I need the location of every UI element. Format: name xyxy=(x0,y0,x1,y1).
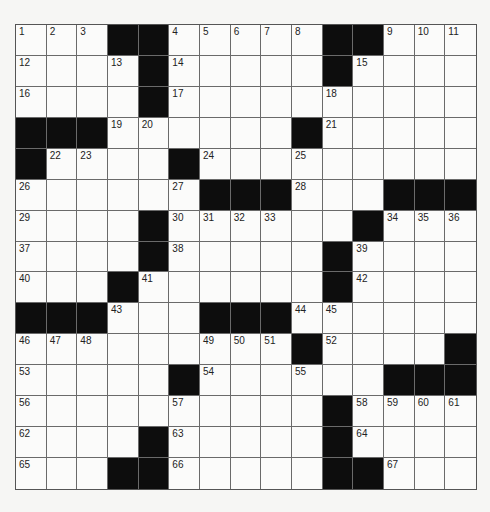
grid-cell[interactable] xyxy=(261,118,292,149)
grid-cell[interactable]: 49 xyxy=(200,334,231,365)
grid-cell[interactable] xyxy=(169,303,200,334)
grid-cell[interactable] xyxy=(108,87,139,118)
grid-cell[interactable]: 16 xyxy=(16,87,47,118)
grid-cell[interactable] xyxy=(384,242,415,273)
grid-cell[interactable]: 38 xyxy=(169,242,200,273)
grid-cell[interactable] xyxy=(108,396,139,427)
grid-cell[interactable]: 42 xyxy=(353,272,384,303)
grid-cell[interactable]: 65 xyxy=(16,458,47,489)
grid-cell[interactable] xyxy=(200,242,231,273)
grid-cell[interactable] xyxy=(77,396,108,427)
grid-cell[interactable] xyxy=(200,56,231,87)
grid-cell[interactable]: 57 xyxy=(169,396,200,427)
grid-cell[interactable] xyxy=(47,272,78,303)
grid-cell[interactable]: 6 xyxy=(231,25,262,56)
grid-cell[interactable] xyxy=(108,334,139,365)
grid-cell[interactable] xyxy=(415,149,446,180)
grid-cell[interactable] xyxy=(77,365,108,396)
grid-cell[interactable] xyxy=(292,56,323,87)
grid-cell[interactable] xyxy=(261,427,292,458)
grid-cell[interactable]: 43 xyxy=(108,303,139,334)
grid-cell[interactable] xyxy=(139,149,170,180)
grid-cell[interactable]: 17 xyxy=(169,87,200,118)
grid-cell[interactable] xyxy=(169,272,200,303)
grid-cell[interactable]: 52 xyxy=(323,334,354,365)
grid-cell[interactable] xyxy=(415,334,446,365)
grid-cell[interactable] xyxy=(323,149,354,180)
grid-cell[interactable]: 5 xyxy=(200,25,231,56)
grid-cell[interactable]: 19 xyxy=(108,118,139,149)
grid-cell[interactable] xyxy=(415,242,446,273)
grid-cell[interactable] xyxy=(169,118,200,149)
grid-cell[interactable] xyxy=(445,272,476,303)
grid-cell[interactable] xyxy=(353,118,384,149)
grid-cell[interactable] xyxy=(445,303,476,334)
grid-cell[interactable] xyxy=(169,334,200,365)
grid-cell[interactable] xyxy=(445,87,476,118)
grid-cell[interactable]: 24 xyxy=(200,149,231,180)
grid-cell[interactable] xyxy=(231,118,262,149)
grid-cell[interactable] xyxy=(415,303,446,334)
grid-cell[interactable]: 33 xyxy=(261,211,292,242)
grid-cell[interactable] xyxy=(384,149,415,180)
grid-cell[interactable] xyxy=(353,334,384,365)
grid-cell[interactable] xyxy=(231,396,262,427)
grid-cell[interactable]: 21 xyxy=(323,118,354,149)
grid-cell[interactable]: 28 xyxy=(292,180,323,211)
grid-cell[interactable]: 67 xyxy=(384,458,415,489)
grid-cell[interactable] xyxy=(384,56,415,87)
grid-cell[interactable] xyxy=(415,56,446,87)
grid-cell[interactable]: 63 xyxy=(169,427,200,458)
grid-cell[interactable]: 34 xyxy=(384,211,415,242)
grid-cell[interactable]: 32 xyxy=(231,211,262,242)
grid-cell[interactable] xyxy=(200,427,231,458)
grid-cell[interactable]: 62 xyxy=(16,427,47,458)
grid-cell[interactable]: 4 xyxy=(169,25,200,56)
grid-cell[interactable]: 46 xyxy=(16,334,47,365)
grid-cell[interactable] xyxy=(323,180,354,211)
grid-cell[interactable] xyxy=(200,118,231,149)
grid-cell[interactable]: 8 xyxy=(292,25,323,56)
grid-cell[interactable] xyxy=(445,427,476,458)
grid-cell[interactable] xyxy=(231,242,262,273)
grid-cell[interactable] xyxy=(231,87,262,118)
grid-cell[interactable]: 1 xyxy=(16,25,47,56)
grid-cell[interactable] xyxy=(231,365,262,396)
grid-cell[interactable] xyxy=(77,87,108,118)
grid-cell[interactable]: 44 xyxy=(292,303,323,334)
grid-cell[interactable] xyxy=(139,396,170,427)
grid-cell[interactable] xyxy=(231,272,262,303)
grid-cell[interactable] xyxy=(415,87,446,118)
grid-cell[interactable] xyxy=(47,211,78,242)
grid-cell[interactable] xyxy=(139,303,170,334)
grid-cell[interactable]: 55 xyxy=(292,365,323,396)
grid-cell[interactable] xyxy=(261,87,292,118)
grid-cell[interactable] xyxy=(292,87,323,118)
grid-cell[interactable] xyxy=(353,303,384,334)
grid-cell[interactable]: 53 xyxy=(16,365,47,396)
grid-cell[interactable] xyxy=(108,427,139,458)
grid-cell[interactable]: 30 xyxy=(169,211,200,242)
grid-cell[interactable] xyxy=(261,458,292,489)
grid-cell[interactable] xyxy=(261,365,292,396)
grid-cell[interactable] xyxy=(108,149,139,180)
grid-cell[interactable]: 56 xyxy=(16,396,47,427)
grid-cell[interactable] xyxy=(353,180,384,211)
grid-cell[interactable] xyxy=(292,396,323,427)
grid-cell[interactable] xyxy=(261,56,292,87)
grid-cell[interactable] xyxy=(384,118,415,149)
grid-cell[interactable] xyxy=(323,365,354,396)
grid-cell[interactable] xyxy=(200,87,231,118)
grid-cell[interactable]: 25 xyxy=(292,149,323,180)
grid-cell[interactable] xyxy=(108,211,139,242)
grid-cell[interactable] xyxy=(231,56,262,87)
grid-cell[interactable]: 9 xyxy=(384,25,415,56)
grid-cell[interactable] xyxy=(445,242,476,273)
grid-cell[interactable]: 58 xyxy=(353,396,384,427)
grid-cell[interactable] xyxy=(108,242,139,273)
grid-cell[interactable] xyxy=(47,87,78,118)
grid-cell[interactable]: 54 xyxy=(200,365,231,396)
grid-cell[interactable] xyxy=(77,242,108,273)
grid-cell[interactable]: 31 xyxy=(200,211,231,242)
grid-cell[interactable]: 22 xyxy=(47,149,78,180)
